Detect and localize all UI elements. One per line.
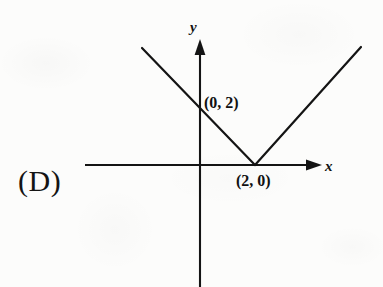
y-axis-label: y [188, 19, 197, 35]
x-axis-label: x [324, 158, 333, 174]
graph-right-branch [255, 47, 361, 165]
figure-page: y x (0, 2) (2, 0) (D) [0, 0, 383, 287]
y-axis-arrowhead [195, 39, 206, 55]
vertex-annotation: (2, 0) [236, 172, 271, 190]
coordinate-plane-figure: y x (0, 2) (2, 0) [0, 0, 383, 287]
y-intercept-annotation: (0, 2) [204, 94, 239, 112]
answer-choice-label: (D) [18, 166, 61, 196]
x-axis-arrowhead [306, 160, 322, 171]
